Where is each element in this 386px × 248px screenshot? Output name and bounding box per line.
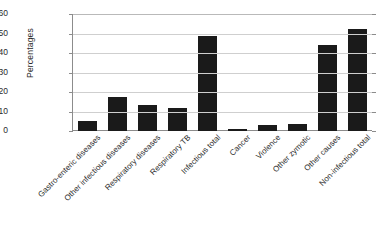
y-tick-mark [69, 14, 73, 15]
y-tick-mark [69, 34, 73, 35]
plot-area [72, 14, 372, 131]
gridline [73, 73, 372, 74]
y-tick-label: 30 [0, 67, 8, 77]
y-tick-label: 60 [0, 8, 8, 18]
gridline [73, 53, 372, 54]
y-tick-label: 50 [0, 28, 8, 38]
bar [258, 125, 277, 131]
y-tick-mark-right [372, 73, 376, 74]
y-tick-mark [69, 53, 73, 54]
y-tick-mark [69, 131, 73, 132]
gridline [73, 34, 372, 35]
y-tick-mark-right [372, 34, 376, 35]
gridline [73, 92, 372, 93]
y-tick-label: 40 [0, 47, 8, 57]
bar [138, 105, 157, 131]
y-tick-label: 10 [0, 106, 8, 116]
gridline [73, 112, 372, 113]
bar [198, 36, 217, 131]
y-tick-label: 0 [0, 125, 8, 135]
y-tick-mark-right [372, 112, 376, 113]
y-tick-label: 20 [0, 86, 8, 96]
y-tick-mark [69, 112, 73, 113]
y-axis-title: Percentages [25, 13, 35, 93]
bar [318, 45, 337, 131]
bar [288, 124, 307, 131]
bar [228, 129, 247, 131]
bar [78, 121, 97, 131]
bar [108, 97, 127, 131]
y-tick-mark [69, 73, 73, 74]
bar [348, 29, 367, 131]
y-tick-mark-right [372, 53, 376, 54]
y-tick-mark-right [372, 14, 376, 15]
y-tick-mark-right [372, 131, 376, 132]
x-axis-labels: Gastro-enteric diseasesOther infectious … [72, 133, 372, 245]
bar-chart: Percentages 0102030405060 Gastro-enteric… [0, 0, 386, 248]
y-tick-mark [69, 92, 73, 93]
y-tick-mark-right [372, 92, 376, 93]
